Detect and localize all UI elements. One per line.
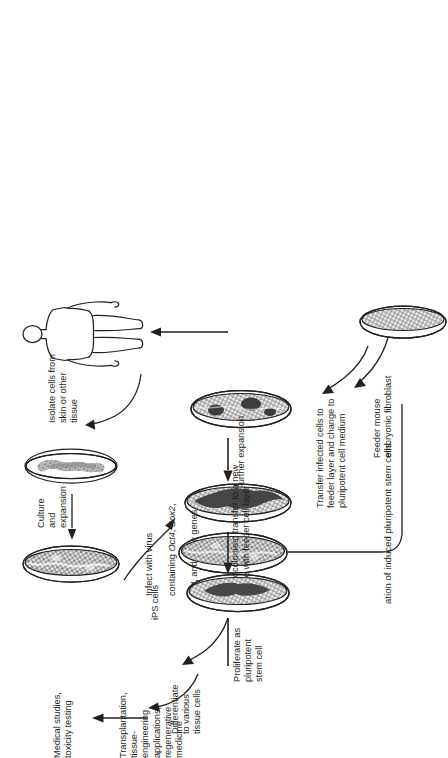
arrow-isolate-cells [85, 370, 143, 438]
arrow-infect-with-virus [122, 516, 176, 582]
label-isolate-cells: Isolate cells from skin or other tissue [47, 341, 81, 423]
label-culture-and-expansion: Culture and expansion [36, 466, 70, 528]
cultured-fibroblast-dish [20, 534, 122, 594]
arrow-feeder-into-plate [352, 336, 392, 392]
label-ips-cells: iPS cells [150, 560, 161, 620]
label-medical-studies: Medical studies, toxicity testing [52, 662, 74, 758]
arrow-to-human [150, 326, 228, 338]
infect-sep-2: , [167, 504, 177, 507]
arrow-to-transplantation [148, 670, 200, 714]
human-subject-figure [22, 284, 144, 384]
figure-caption: ation of induced pluripotent stem cells. [382, 441, 393, 604]
label-proliferate: Proliferate as pluripotent stem cell [232, 608, 266, 682]
